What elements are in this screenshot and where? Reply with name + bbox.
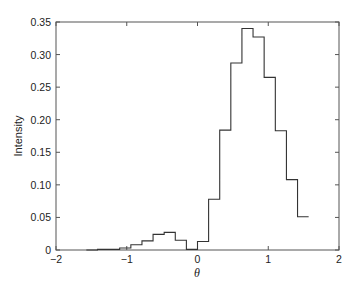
x-tick-label: 1 xyxy=(265,253,271,265)
y-tick-label: 0.30 xyxy=(31,49,52,61)
plot-border xyxy=(56,22,339,250)
y-tick-labels: 00.050.100.150.200.250.300.35 xyxy=(31,16,52,256)
y-tick-label: 0.15 xyxy=(31,146,52,158)
x-axis-label: θ xyxy=(194,266,200,280)
y-tick-label: 0.25 xyxy=(31,81,52,93)
x-tick-label: −1 xyxy=(121,253,133,265)
x-tick-label: 2 xyxy=(336,253,342,265)
histogram-step-line xyxy=(86,29,308,250)
plot-frame xyxy=(56,22,339,250)
y-tick-label: 0.35 xyxy=(31,16,52,28)
y-axis-label: Intensity xyxy=(12,115,24,156)
y-tick-label: 0.20 xyxy=(31,114,52,126)
histogram-chart: 00.050.100.150.200.250.300.35 −2−1012 In… xyxy=(0,0,353,292)
x-tick-labels: −2−1012 xyxy=(50,253,342,265)
histogram-series xyxy=(86,29,308,250)
y-tick-label: 0.10 xyxy=(31,179,52,191)
x-tick-label: −2 xyxy=(50,253,62,265)
x-tick-label: 0 xyxy=(195,253,201,265)
axis-ticks xyxy=(56,22,339,250)
y-tick-label: 0.05 xyxy=(31,211,52,223)
